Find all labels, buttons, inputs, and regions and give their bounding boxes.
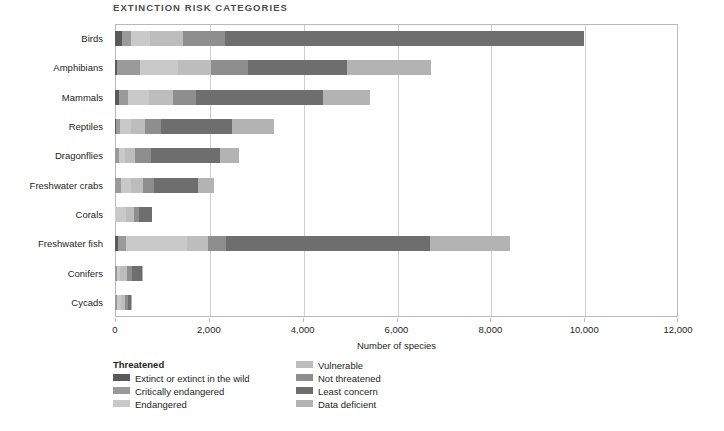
bar-segment xyxy=(211,60,249,75)
legend-item-label: Extinct or extinct in the wild xyxy=(135,373,250,384)
bars-layer xyxy=(115,24,678,317)
legend-item-label: Vulnerable xyxy=(318,360,363,371)
legend-swatch-icon xyxy=(296,387,313,394)
legend-column-threatened: Threatened Extinct or extinct in the wil… xyxy=(113,358,288,410)
bar-segment xyxy=(143,178,154,193)
bar-segment xyxy=(150,31,183,46)
bar-segment xyxy=(198,178,213,193)
bar-segment xyxy=(118,236,126,251)
bar-segment xyxy=(220,148,239,163)
bar-segment xyxy=(135,148,150,163)
chart-legend: Threatened Extinct or extinct in the wil… xyxy=(113,358,513,422)
bar-row xyxy=(115,266,143,281)
legend-item[interactable]: Critically endangered xyxy=(113,384,288,397)
x-axis-tick-label: 0 xyxy=(112,324,117,335)
y-axis-labels: BirdsAmphibiansMammalsReptilesDragonflie… xyxy=(0,24,109,317)
bar-segment xyxy=(226,236,430,251)
x-axis-tick-label: 12,000 xyxy=(663,324,692,335)
bar-segment xyxy=(145,119,160,134)
bar-segment xyxy=(126,236,187,251)
bar-segment xyxy=(125,148,135,163)
legend-item-label: Least concern xyxy=(318,386,378,397)
bar-row xyxy=(115,60,431,75)
y-axis-tick-label: Birds xyxy=(0,33,109,44)
bar-segment xyxy=(115,207,126,222)
y-axis-tick-label: Mammals xyxy=(0,92,109,103)
x-axis-tick-label: 8,000 xyxy=(478,324,502,335)
bar-segment xyxy=(173,90,196,105)
legend-item[interactable]: Extinct or extinct in the wild xyxy=(113,371,288,384)
legend-swatch-icon xyxy=(113,374,130,381)
legend-item-label: Data deficient xyxy=(318,399,376,410)
legend-item-label: Not threatened xyxy=(318,373,381,384)
bar-segment xyxy=(132,266,142,281)
bar-segment xyxy=(225,31,584,46)
y-axis-tick-label: Dragonflies xyxy=(0,150,109,161)
bar-segment xyxy=(121,178,131,193)
legend-column-other: VulnerableNot threatenedLeast concernDat… xyxy=(296,358,456,410)
x-axis-tick-label: 10,000 xyxy=(570,324,599,335)
x-axis-tick xyxy=(677,318,678,322)
x-axis-tick xyxy=(397,318,398,322)
legend-item[interactable]: Not threatened xyxy=(296,371,456,384)
bar-segment xyxy=(196,90,323,105)
legend-item[interactable]: Data deficient xyxy=(296,397,456,410)
bar-segment xyxy=(208,236,226,251)
bar-row xyxy=(115,178,214,193)
y-axis-tick-label: Conifers xyxy=(0,268,109,279)
legend-heading-threatened: Threatened xyxy=(113,358,288,371)
x-axis-tick-label: 6,000 xyxy=(385,324,409,335)
bar-segment xyxy=(161,119,232,134)
bar-row xyxy=(115,207,152,222)
y-axis-tick-label: Freshwater fish xyxy=(0,238,109,249)
legend-item[interactable]: Least concern xyxy=(296,384,456,397)
legend-item[interactable]: Vulnerable xyxy=(296,358,456,371)
bar-segment xyxy=(248,60,347,75)
x-axis-tick-label: 2,000 xyxy=(197,324,221,335)
legend-swatch-icon xyxy=(296,361,313,368)
bar-segment xyxy=(122,31,131,46)
bar-row xyxy=(115,295,132,310)
bar-segment xyxy=(139,207,152,222)
x-axis-tick xyxy=(490,318,491,322)
x-axis-tick xyxy=(115,318,116,322)
bar-row xyxy=(115,119,274,134)
bar-segment xyxy=(178,60,211,75)
bar-segment xyxy=(128,90,149,105)
bar-segment xyxy=(183,31,225,46)
legend-swatch-icon xyxy=(113,387,130,394)
bar-segment xyxy=(187,236,208,251)
bar-row xyxy=(115,236,510,251)
y-axis-tick-label: Freshwater crabs xyxy=(0,180,109,191)
bar-segment xyxy=(131,119,146,134)
bar-segment xyxy=(119,90,128,105)
legend-swatch-icon xyxy=(113,400,130,407)
legend-item-label: Endangered xyxy=(135,399,187,410)
legend-item-label: Critically endangered xyxy=(135,386,224,397)
chart-title: EXTINCTION RISK CATEGORIES xyxy=(113,2,288,13)
bar-row xyxy=(115,31,584,46)
bar-segment xyxy=(323,90,370,105)
bar-row xyxy=(115,90,370,105)
y-axis-tick-label: Corals xyxy=(0,209,109,220)
bar-segment xyxy=(131,31,150,46)
x-axis-tick xyxy=(303,318,304,322)
x-axis-tick xyxy=(209,318,210,322)
bar-segment xyxy=(154,178,198,193)
bar-segment xyxy=(131,178,144,193)
bar-segment xyxy=(142,266,143,281)
legend-swatch-icon xyxy=(296,374,313,381)
bar-segment xyxy=(232,119,274,134)
bar-segment xyxy=(347,60,431,75)
bar-row xyxy=(115,148,239,163)
x-axis-tick xyxy=(584,318,585,322)
y-axis-tick-label: Cycads xyxy=(0,297,109,308)
bar-segment xyxy=(149,90,172,105)
y-axis-tick-label: Reptiles xyxy=(0,121,109,132)
bar-segment xyxy=(140,60,178,75)
bar-segment xyxy=(120,119,131,134)
bar-segment xyxy=(151,148,220,163)
x-axis-tick-label: 4,000 xyxy=(291,324,315,335)
x-axis-title: Number of species xyxy=(115,340,678,351)
legend-item[interactable]: Endangered xyxy=(113,397,288,410)
